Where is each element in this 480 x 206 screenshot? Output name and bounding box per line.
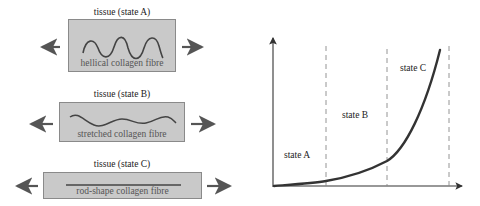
tissue-box-state-c: rod-shape collagen fibre xyxy=(43,172,202,199)
graph-label-state-b: state B xyxy=(342,110,368,120)
state-a-title: tissue (state A) xyxy=(94,7,150,17)
graph-label-state-a: state A xyxy=(284,150,310,160)
state-b-title: tissue (state B) xyxy=(94,89,150,99)
state-b-fibre-label: stretched collagen fibre xyxy=(60,129,184,139)
graph-label-state-c: state C xyxy=(400,63,426,73)
state-c-title: tissue (state C) xyxy=(94,159,150,169)
tissue-box-state-b: stretched collagen fibre xyxy=(59,102,185,142)
state-c-fibre-label: rod-shape collagen fibre xyxy=(44,186,201,196)
collagen-stretch-diagram: tissue (state A) hellical collagen fibre… xyxy=(0,0,480,206)
state-a-fibre-label: hellical collagen fibre xyxy=(69,58,175,68)
tissue-box-state-a: hellical collagen fibre xyxy=(68,19,176,72)
